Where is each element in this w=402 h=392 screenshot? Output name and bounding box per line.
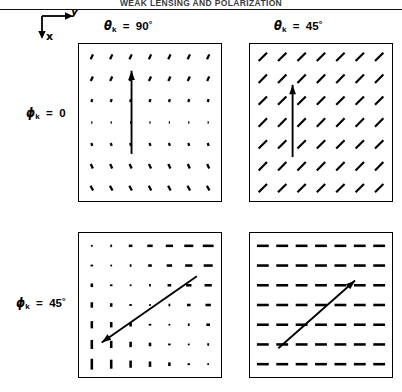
running-head: WEAK LENSING AND POLARIZATION: [0, 0, 402, 7]
degree-symbol: °: [319, 19, 323, 29]
row-label-phi-0: ϕk = 0: [26, 106, 66, 121]
polarization-panel-theta90-phi0: [78, 43, 222, 202]
axis-label-y: y: [71, 10, 79, 18]
panel-plot-area: [79, 44, 221, 201]
phi-symbol: ϕ: [16, 296, 25, 310]
polarization-ticks: [91, 54, 210, 190]
panel-plot-area: [250, 233, 392, 377]
theta-symbol: θ: [274, 19, 282, 33]
theta-subscript: k: [282, 25, 286, 34]
polarization-panel-theta45-phi0: [249, 43, 393, 202]
coordinate-axes-key: y x: [36, 10, 84, 42]
equals-sign: =: [293, 20, 300, 32]
equals-sign: =: [123, 20, 130, 32]
phi-subscript: k: [35, 112, 39, 121]
theta-subscript: k: [112, 25, 116, 34]
phi-value: 0: [59, 107, 65, 119]
wavevector-arrow: [278, 281, 355, 349]
polarization-ticks: [259, 53, 384, 193]
degree-symbol: °: [149, 19, 153, 29]
theta-value: 90: [136, 20, 149, 32]
panel-plot-area: [250, 44, 392, 201]
polarization-ticks: [257, 246, 385, 364]
panel-plot-area: [79, 233, 221, 377]
polarization-panel-theta90-phi45: [78, 232, 222, 378]
wavevector-arrow: [128, 71, 135, 154]
phi-value: 45: [49, 297, 62, 309]
wavevector-arrow: [289, 85, 296, 157]
phi-symbol: ϕ: [26, 106, 35, 120]
column-header-theta-90: θk = 90°: [104, 19, 152, 34]
column-header-theta-45: θk = 45°: [274, 19, 322, 34]
equals-sign: =: [36, 297, 43, 309]
axis-label-x: x: [46, 30, 53, 42]
phi-subscript: k: [25, 302, 29, 311]
row-label-phi-45: ϕk = 45°: [16, 296, 66, 311]
theta-symbol: θ: [104, 19, 112, 33]
polarization-panel-theta45-phi45: [249, 232, 393, 378]
theta-value: 45: [306, 20, 319, 32]
equals-sign: =: [46, 107, 53, 119]
degree-symbol: °: [62, 296, 66, 306]
